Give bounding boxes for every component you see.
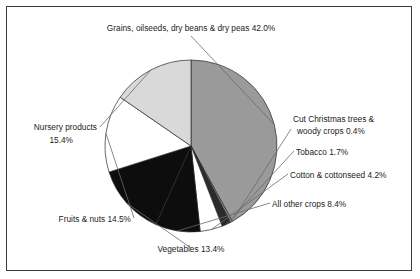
label-tobacco: Tobacco 1.7%: [296, 147, 349, 157]
label-vegetables: Vegetables 13.4%: [158, 244, 226, 254]
pie-chart-canvas: Grains, oilseeds, dry beans & dry peas 4…: [0, 0, 420, 279]
label-all-other-crops: All other crops 8.4%: [272, 199, 347, 209]
label-cotton-cottonseed: Cotton & cottonseed 4.2%: [290, 170, 387, 180]
label-nursery-products-line1: Nursery products: [34, 122, 97, 132]
label-nursery-products-line2: 15.4%: [49, 135, 73, 145]
label-fruits-nuts: Fruits & nuts 14.5%: [59, 214, 132, 224]
label-christmas-trees-line1: Cut Christmas trees &: [293, 114, 375, 124]
label-christmas-trees-line2: woody crops 0.4%: [296, 126, 365, 136]
pie-chart-figure: Grains, oilseeds, dry beans & dry peas 4…: [0, 0, 420, 279]
label-grains: Grains, oilseeds, dry beans & dry peas 4…: [107, 23, 276, 33]
